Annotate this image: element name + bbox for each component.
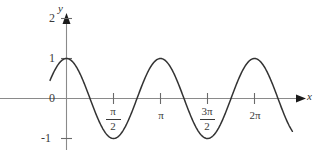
x-axis-name: x [307, 91, 312, 102]
x-axis-arrow-icon [296, 95, 306, 103]
x-tick-label-2pi: 2π [240, 110, 270, 121]
x-tick-label-pi: π [146, 110, 176, 121]
y-axis-name: y [58, 3, 63, 14]
x-tick-label-pi-over-2-denominator: 2 [96, 120, 130, 133]
x-tick-label-pi-over-2-numerator: π [96, 106, 130, 119]
y-tick-label-minus-1: -1 [29, 132, 51, 144]
y-tick-label-1: 1 [33, 52, 55, 64]
y-tick-label-0: 0 [33, 92, 55, 104]
x-tick-label-3pi-over-2: 3π 2 [190, 106, 224, 132]
x-tick-label-pi-over-2: π 2 [96, 106, 130, 132]
x-tick-label-3pi-over-2-numerator: 3π [190, 106, 224, 119]
cosine-wave-figure: 2 1 0 -1 π 2 π 3π 2 2π y x [0, 0, 318, 156]
x-tick-label-3pi-over-2-denominator: 2 [190, 120, 224, 133]
y-tick-label-2: 2 [33, 12, 55, 24]
